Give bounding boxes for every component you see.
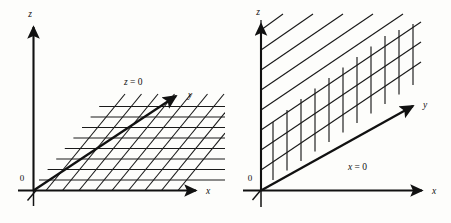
axes-right [243, 24, 422, 207]
diagram-left-svg: z y x 0 z = 0 [0, 0, 225, 223]
axis-label-x: x [205, 186, 211, 196]
axis-y-negative-stub [28, 191, 37, 201]
origin-label: 0 [248, 173, 253, 183]
axis-label-y: y [422, 100, 428, 110]
grid-lines-parallel-y [46, 94, 225, 191]
figure-root: z y x 0 z = 0 [0, 0, 451, 223]
axis-label-z: z [255, 7, 260, 17]
plane-label-rest: = 0 [128, 77, 143, 87]
plane-label-z-equals-0: z = 0 [123, 77, 143, 87]
plane-label-rest: = 0 [352, 162, 367, 172]
axis-y-negative-stub [253, 191, 261, 201]
grid-plane-x0 [261, 14, 421, 190]
axis-label-x: x [431, 186, 437, 196]
panel-right-x-equals-0: z y x 0 x = 0 [225, 0, 451, 223]
axis-label-y: y [187, 90, 193, 100]
origin-label: 0 [20, 173, 25, 183]
grid-plane-z0 [39, 94, 225, 191]
axis-y-line [34, 96, 177, 191]
diagram-right-svg: z y x 0 x = 0 [225, 0, 451, 223]
panel-left-z-equals-0: z y x 0 z = 0 [0, 0, 225, 223]
plane-label-x-equals-0: x = 0 [347, 162, 367, 172]
axis-label-z: z [27, 9, 32, 19]
